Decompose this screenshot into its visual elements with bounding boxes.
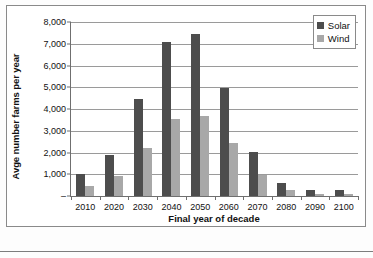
y-tick-label: 7,000 (32, 39, 66, 49)
y-tick-label: – (32, 191, 66, 201)
legend-label-wind: Wind (328, 33, 350, 44)
bar-wind-2090[interactable] (315, 194, 324, 196)
chart-legend: Solar Wind (313, 15, 356, 49)
x-tick-mark (186, 196, 187, 200)
bar-solar-2070[interactable] (249, 152, 258, 196)
bar-solar-2020[interactable] (105, 155, 114, 196)
x-tick-label-2040: 2040 (161, 202, 181, 212)
wind-swatch-icon (317, 35, 324, 42)
x-tick-label-2050: 2050 (190, 202, 210, 212)
y-tick-label: 5,000 (32, 82, 66, 92)
x-tick-label-2010: 2010 (75, 202, 95, 212)
x-tick-mark (128, 196, 129, 200)
bar-wind-2060[interactable] (229, 143, 238, 196)
page-bottom-rule (0, 251, 373, 252)
bar-solar-2040[interactable] (162, 42, 171, 196)
bar-solar-2080[interactable] (277, 183, 286, 196)
bar-solar-2060[interactable] (220, 88, 229, 196)
x-tick-mark (243, 196, 244, 200)
bar-solar-2090[interactable] (306, 190, 315, 196)
bar-group (272, 22, 301, 196)
legend-item-wind[interactable]: Wind (317, 32, 350, 45)
chart-frame: Avge number farms per year –1,0002,0003,… (6, 5, 366, 227)
bar-wind-2030[interactable] (143, 148, 152, 196)
y-tick-label: 6,000 (32, 61, 66, 71)
bar-group (157, 22, 186, 196)
x-tick-label-2070: 2070 (248, 202, 268, 212)
legend-item-solar[interactable]: Solar (317, 19, 350, 32)
bar-wind-2020[interactable] (114, 176, 123, 196)
x-tick-label-2100: 2100 (334, 202, 354, 212)
y-axis-title-text: Avge number farms per year (11, 53, 22, 179)
y-tick-label: 8,000 (32, 17, 66, 27)
chart-page: Avge number farms per year –1,0002,0003,… (0, 0, 373, 258)
bar-solar-2050[interactable] (191, 34, 200, 196)
x-tick-mark (100, 196, 101, 200)
y-tick-label: 4,000 (32, 104, 66, 114)
y-tick-label: 1,000 (32, 169, 66, 179)
bar-group (215, 22, 244, 196)
bar-group (100, 22, 129, 196)
x-tick-mark (272, 196, 273, 200)
x-tick-mark (71, 196, 72, 200)
y-tick-label: 3,000 (32, 126, 66, 136)
x-tick-mark (157, 196, 158, 200)
x-tick-mark (329, 196, 330, 200)
legend-label-solar: Solar (328, 20, 350, 31)
x-tick-label-2080: 2080 (276, 202, 296, 212)
bar-solar-2010[interactable] (76, 174, 85, 196)
x-tick-label-2020: 2020 (104, 202, 124, 212)
y-axis-title: Avge number farms per year (9, 36, 23, 196)
x-tick-label-2060: 2060 (219, 202, 239, 212)
bar-group (186, 22, 215, 196)
x-tick-label-2030: 2030 (133, 202, 153, 212)
bar-wind-2010[interactable] (85, 186, 94, 196)
bar-wind-2070[interactable] (258, 175, 267, 196)
bar-group (128, 22, 157, 196)
bar-wind-2100[interactable] (344, 194, 353, 196)
bar-wind-2050[interactable] (200, 116, 209, 196)
bar-group (243, 22, 272, 196)
bar-wind-2040[interactable] (171, 119, 180, 196)
x-tick-mark (358, 196, 359, 200)
x-tick-mark (215, 196, 216, 200)
x-tick-mark (301, 196, 302, 200)
bar-wind-2080[interactable] (286, 190, 295, 196)
x-tick-label-2090: 2090 (305, 202, 325, 212)
solar-swatch-icon (317, 22, 324, 29)
bar-solar-2030[interactable] (134, 99, 143, 196)
bar-solar-2100[interactable] (335, 190, 344, 196)
y-tick-label: 2,000 (32, 148, 66, 158)
x-axis-title: Final year of decade (70, 213, 358, 224)
bar-group (71, 22, 100, 196)
